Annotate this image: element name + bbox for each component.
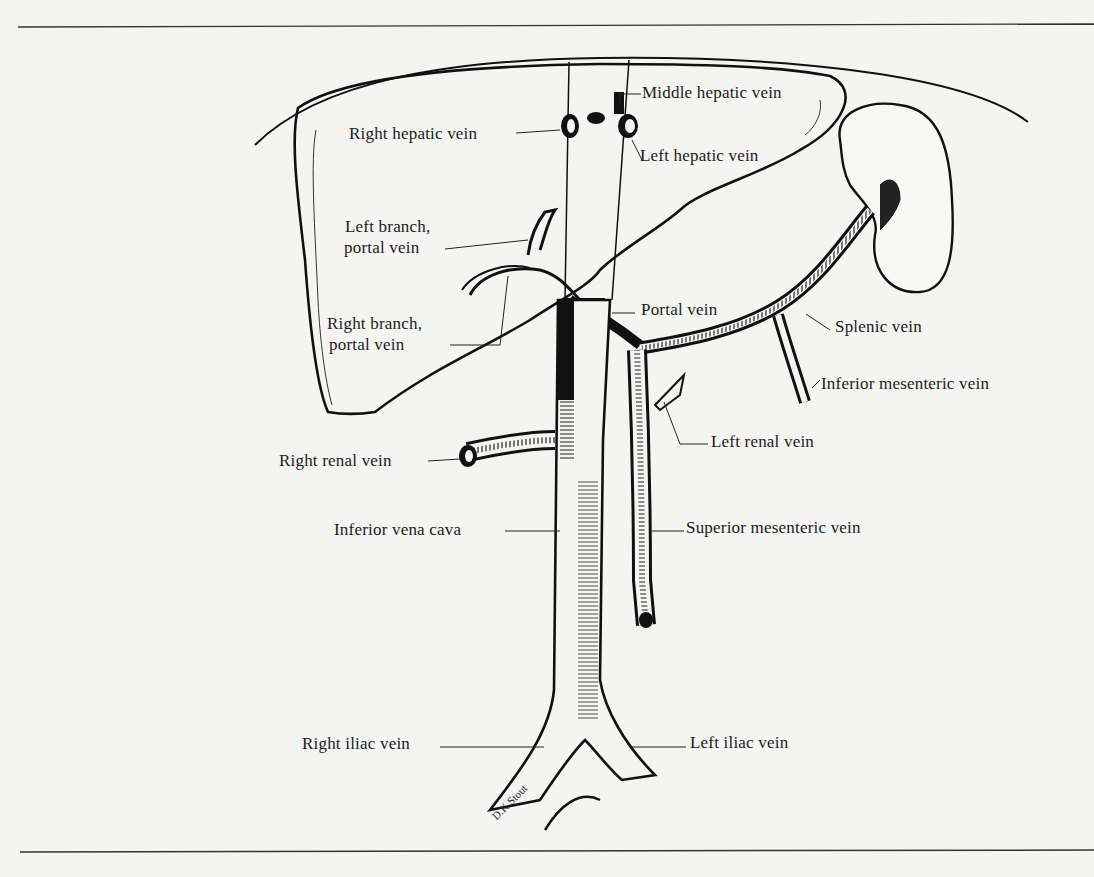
top-rule <box>18 24 1094 27</box>
label-left-branch-portal-line1: Left branch, <box>345 216 430 237</box>
label-right-hepatic-vein: Right hepatic vein <box>349 124 477 144</box>
label-superior-mesenteric-vein: Superior mesenteric vein <box>686 518 861 538</box>
label-left-hepatic-vein: Left hepatic vein <box>640 146 759 166</box>
label-left-renal-vein: Left renal vein <box>711 432 814 452</box>
label-inferior-mesenteric-vein: Inferior mesenteric vein <box>821 374 989 394</box>
label-middle-hepatic-vein: Middle hepatic vein <box>642 83 782 103</box>
label-inferior-vena-cava: Inferior vena cava <box>334 520 461 540</box>
left-renal-vein-stub <box>655 375 684 410</box>
label-portal-vein: Portal vein <box>641 300 717 320</box>
label-right-branch-portal-line2: portal vein <box>329 334 404 355</box>
right-branch-portal <box>470 269 580 300</box>
left-branch-portal <box>528 210 555 255</box>
bottom-rule <box>20 850 1094 852</box>
vein-illustration: D.K.Stout <box>0 0 1094 877</box>
anatomy-figure: D.K.Stout Middle hepatic vein Right hepa… <box>0 0 1094 877</box>
label-right-renal-vein: Right renal vein <box>279 451 392 471</box>
label-right-iliac-vein: Right iliac vein <box>302 734 410 754</box>
label-splenic-vein: Splenic vein <box>835 317 922 337</box>
label-right-branch-portal-line1: Right branch, <box>327 313 422 334</box>
label-left-branch-portal-line2: portal vein <box>344 237 419 258</box>
leader-lines <box>428 94 830 747</box>
label-left-iliac-vein: Left iliac vein <box>690 733 788 753</box>
